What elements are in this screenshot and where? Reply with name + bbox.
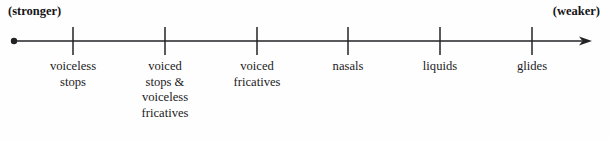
- axis-start-dot: [11, 38, 17, 44]
- tick-label: glides: [472, 59, 592, 75]
- sonority-scale-figure: (stronger) (weaker) voiceless stopsvoice…: [0, 0, 609, 142]
